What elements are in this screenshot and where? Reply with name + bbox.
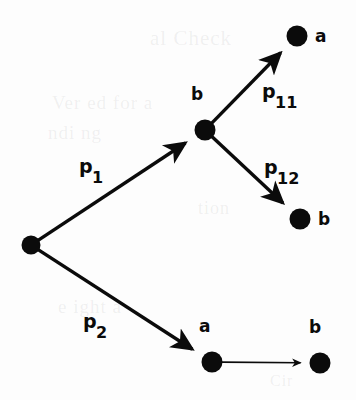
graph-canvas — [0, 0, 356, 400]
node-root — [22, 236, 41, 255]
node-label-mid_b: b — [191, 86, 203, 103]
edge-label-base: p — [83, 310, 97, 332]
node-bot_a — [202, 352, 223, 373]
edge-label-e_p12: p12 — [264, 158, 278, 177]
edge-label-base: p — [79, 155, 93, 177]
derivation-graph-figure: al CheckVer ed for andi ngtione ight aCi… — [0, 0, 356, 400]
node-label-right_b: b — [318, 211, 330, 228]
edge-e_ab — [221, 362, 301, 363]
edge-label-subscript: 11 — [275, 95, 297, 111]
edge-label-e_p2: p2 — [83, 312, 97, 331]
edge-label-base: p — [262, 80, 276, 102]
edge-label-subscript: 12 — [277, 171, 299, 187]
node-mid_b — [195, 120, 216, 141]
edge-label-e_p11: p11 — [262, 82, 276, 101]
node-top_a — [287, 26, 308, 47]
node-bot_b — [310, 353, 331, 374]
node-right_b — [290, 209, 311, 230]
node-label-bot_b: b — [309, 319, 321, 336]
node-label-bot_a: a — [199, 318, 210, 335]
edge-label-base: p — [264, 156, 278, 178]
edge-e_p2 — [38, 249, 193, 349]
edge-label-e_p1: p1 — [79, 157, 93, 176]
node-layer — [22, 26, 331, 374]
node-label-top_a: a — [315, 28, 326, 45]
edge-label-subscript: 2 — [96, 325, 107, 341]
edge-e_p1 — [38, 143, 186, 241]
edge-label-subscript: 1 — [92, 170, 103, 186]
